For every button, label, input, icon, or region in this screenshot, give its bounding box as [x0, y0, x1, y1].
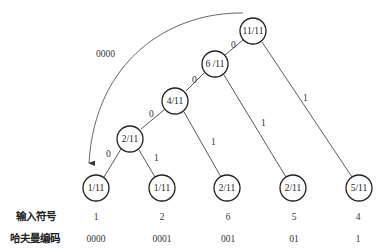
- code-cell: 001: [221, 234, 236, 244]
- leaf-node: 5/11: [346, 175, 372, 201]
- leaf-node: 1/11: [83, 175, 109, 201]
- tree-node-6: 6 /11: [202, 51, 228, 77]
- edge-label: 1: [154, 153, 159, 163]
- edge-label: 0: [192, 75, 197, 85]
- edge-n2-right: [139, 150, 155, 177]
- svg-text:2/11: 2/11: [122, 134, 139, 144]
- row-label-symbols: 输入符号: [16, 210, 56, 222]
- code-cell: 0000: [87, 234, 106, 244]
- svg-text:2/11: 2/11: [219, 183, 236, 193]
- huffman-tree-diagram: 0000 0 1 0 1 0 1 0 1 11/11 6 /11 4/11 2/…: [0, 0, 378, 251]
- edge-label: 1: [211, 137, 216, 147]
- svg-text:5/11: 5/11: [351, 183, 368, 193]
- svg-text:2/11: 2/11: [285, 183, 302, 193]
- row-label-codes: 哈夫曼编码: [10, 232, 61, 244]
- symbol-cell: 4: [356, 212, 361, 222]
- svg-text:4/11: 4/11: [167, 96, 184, 106]
- edge-label: 0: [106, 149, 111, 159]
- edge-root-right: [262, 42, 352, 177]
- leaf-node: 1/11: [149, 175, 175, 201]
- symbol-cell: 1: [94, 212, 99, 222]
- edge-label: 0: [149, 109, 154, 119]
- svg-text:1/11: 1/11: [154, 183, 171, 193]
- tree-node-4: 4/11: [162, 88, 188, 114]
- tree-node-root: 11/11: [240, 18, 266, 44]
- symbol-cell: 6: [226, 212, 231, 222]
- symbol-cell: 5: [292, 212, 297, 222]
- edge-n6-right: [224, 75, 286, 177]
- leaf-node: 2/11: [280, 175, 306, 201]
- code-cell: 1: [356, 234, 361, 244]
- arc-label: 0000: [96, 49, 115, 59]
- symbol-cell: 2: [160, 212, 165, 222]
- svg-text:1/11: 1/11: [88, 183, 105, 193]
- code-path-arrow: [89, 13, 243, 163]
- edge-label: 1: [303, 93, 308, 103]
- edge-label: 1: [261, 118, 266, 128]
- edge-label: 0: [231, 40, 236, 50]
- code-cell: 0001: [153, 234, 172, 244]
- code-cell: 01: [289, 234, 299, 244]
- tree-node-2: 2/11: [117, 126, 143, 152]
- svg-text:11/11: 11/11: [243, 26, 264, 36]
- svg-text:6 /11: 6 /11: [206, 59, 225, 69]
- leaf-node: 2/11: [214, 175, 240, 201]
